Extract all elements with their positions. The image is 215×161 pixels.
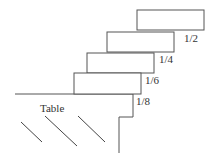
block-3 xyxy=(87,53,154,73)
overhang-label-3: 1/6 xyxy=(145,74,160,86)
table-hatch xyxy=(21,122,42,142)
table-hatch xyxy=(45,116,77,146)
block-4 xyxy=(74,73,141,94)
overhang-label-2: 1/4 xyxy=(159,53,174,65)
overhang-label-1: 1/2 xyxy=(184,32,198,44)
block-2 xyxy=(107,32,174,52)
table-hatch xyxy=(78,116,105,142)
table-edge xyxy=(15,94,133,153)
block-1 xyxy=(137,10,204,30)
block-stacking-diagram: 1/2 1/4 1/6 1/8 Table xyxy=(0,0,215,161)
table-label: Table xyxy=(40,102,64,114)
overhang-label-4: 1/8 xyxy=(136,95,151,107)
